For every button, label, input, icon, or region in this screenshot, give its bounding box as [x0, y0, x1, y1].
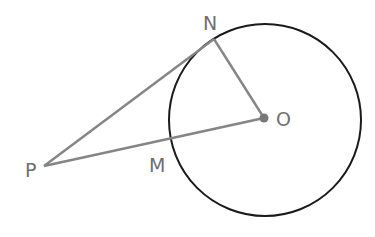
- label-m: M: [149, 154, 165, 176]
- label-p: P: [25, 159, 36, 181]
- geometry-diagram: N O P M: [0, 0, 375, 237]
- center-dot-o: [260, 114, 269, 123]
- segment-no: [214, 39, 264, 118]
- label-o: O: [276, 108, 291, 130]
- label-n: N: [203, 12, 217, 34]
